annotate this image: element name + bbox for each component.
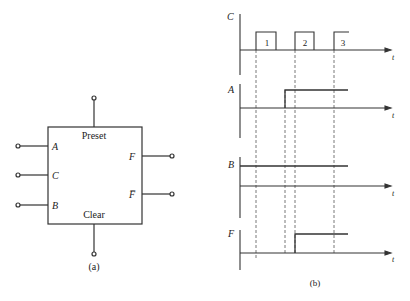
pulse-2-label: 2: [303, 38, 308, 48]
signal-c-label: C: [227, 11, 234, 22]
signal-b-label: B: [228, 159, 234, 170]
pulse-3-label: 3: [341, 38, 346, 48]
signal-b: [240, 157, 391, 218]
signal-f-label: F: [227, 228, 235, 239]
signal-a: [240, 84, 391, 138]
input-c-label: C: [52, 170, 59, 181]
output-fbar-label: F̅: [128, 189, 136, 200]
pulse-1-label: 1: [265, 38, 270, 48]
time-axis-label-c: t: [392, 53, 395, 62]
flip-flop-block: [16, 96, 174, 256]
clock-edge-guides: [256, 50, 334, 258]
signal-f: [240, 230, 391, 270]
caption-a: (a): [88, 261, 99, 273]
timing-diagram: [240, 14, 391, 270]
preset-label: Preset: [82, 130, 107, 141]
clear-label: Clear: [83, 209, 105, 220]
caption-b: (b): [310, 278, 321, 288]
output-f-label: F: [128, 151, 136, 162]
time-axis-label-b: t: [392, 189, 395, 198]
signal-c: [240, 14, 391, 75]
time-axis-label-f: t: [392, 255, 395, 264]
input-a-label: A: [51, 141, 59, 152]
diagram-canvas: Preset Clear A C B F F̅ (a): [0, 0, 410, 301]
time-axis-label-a: t: [392, 111, 395, 120]
signal-a-label: A: [227, 84, 235, 95]
input-b-label: B: [52, 200, 58, 211]
